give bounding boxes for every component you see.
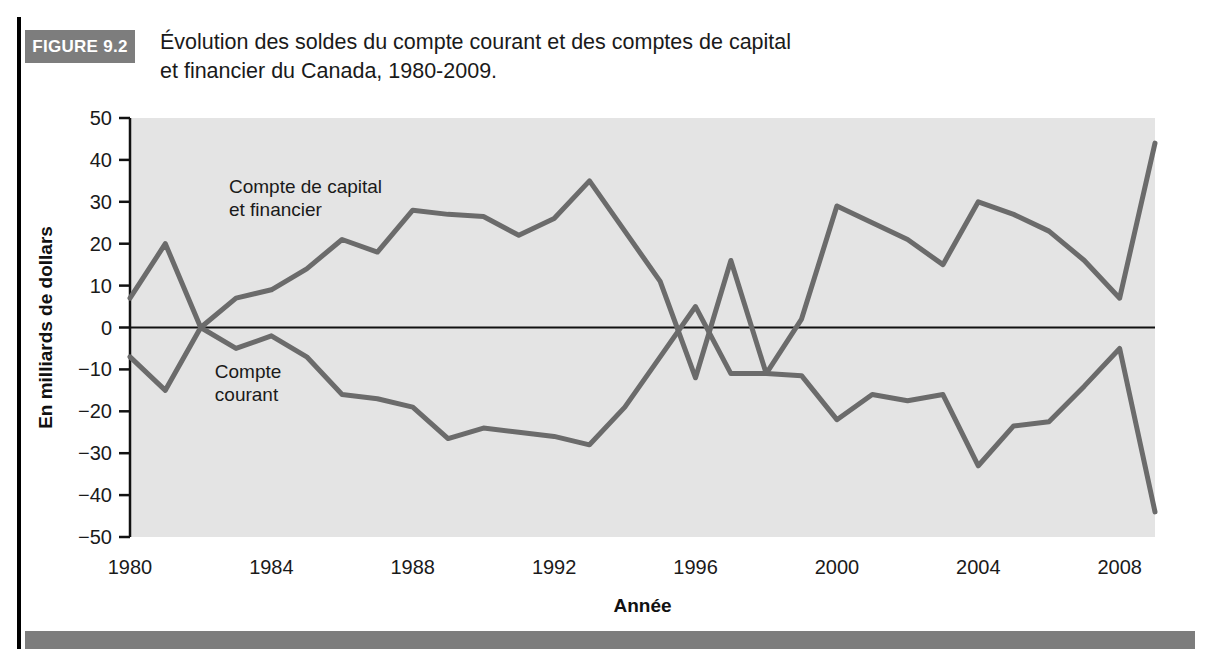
series-annotation-label: courant <box>215 384 279 405</box>
figure-footer-bar <box>25 631 1195 649</box>
y-axis-tick-label: −40 <box>78 484 112 506</box>
x-axis-tick-label: 1988 <box>391 556 436 578</box>
y-axis-tick-label: −20 <box>78 400 112 422</box>
x-axis: 19801984198819921996200020042008 <box>108 556 1142 578</box>
y-axis-tick-label: −30 <box>78 442 112 464</box>
x-axis-tick-label: 2008 <box>1097 556 1142 578</box>
y-axis-tick-label: 10 <box>90 275 112 297</box>
y-axis-tick-label: 30 <box>90 191 112 213</box>
y-axis-tick-label: −50 <box>78 526 112 548</box>
x-axis-tick-label: 1996 <box>673 556 718 578</box>
series-annotation-label: Compte de capital <box>229 176 382 197</box>
x-axis-tick-label: 2000 <box>815 556 860 578</box>
x-axis-tick-label: 1980 <box>108 556 153 578</box>
x-axis-tick-label: 1992 <box>532 556 577 578</box>
x-axis-tick-label: 1984 <box>249 556 294 578</box>
figure-container: FIGURE 9.2 Évolution des soldes du compt… <box>0 0 1215 659</box>
x-axis-tick-label: 2004 <box>956 556 1001 578</box>
y-axis: 50403020100−10−20−30−40−50 <box>78 107 130 548</box>
chart-plot-region: 50403020100−10−20−30−40−50 1980198419881… <box>0 0 1215 659</box>
y-axis-title: En milliards de dollars <box>35 226 56 429</box>
series-annotation-label: Compte <box>215 361 282 382</box>
y-axis-tick-label: −10 <box>78 358 112 380</box>
y-axis-tick-label: 0 <box>101 317 112 339</box>
y-axis-tick-label: 50 <box>90 107 112 129</box>
y-axis-tick-label: 40 <box>90 149 112 171</box>
y-axis-tick-label: 20 <box>90 233 112 255</box>
x-axis-title: Année <box>613 595 671 616</box>
series-annotation-label: et financier <box>229 199 323 220</box>
